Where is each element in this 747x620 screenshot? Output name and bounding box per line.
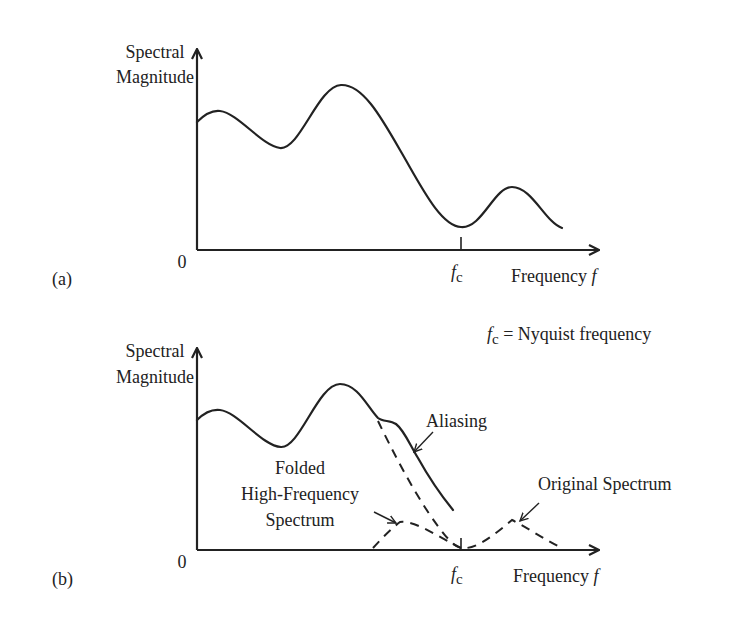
y-axis-label-line1: Spectral xyxy=(126,42,185,62)
aliasing-figure: Spectral Magnitude 0 (a) fc Frequency f … xyxy=(0,0,747,620)
x-axis-label: Frequency f xyxy=(511,266,599,286)
y-axis-label-line2: Magnitude xyxy=(116,67,194,87)
original-spectrum-dashed xyxy=(378,421,562,548)
nyquist-tick-label: fc xyxy=(451,564,463,587)
nyquist-legend: fc = Nyquist frequency xyxy=(487,324,651,347)
original-spectrum-label: Original Spectrum xyxy=(538,474,671,494)
origin-label: 0 xyxy=(178,252,187,272)
folded-spectrum-dashed xyxy=(373,522,461,548)
origin-label: 0 xyxy=(178,552,187,572)
folded-pointer xyxy=(374,512,396,523)
panel-tag: (b) xyxy=(52,569,73,590)
panel-b: Spectral Magnitude fc = Nyquist frequenc… xyxy=(52,324,671,590)
folded-label-line1: Folded xyxy=(275,458,325,478)
spectrum-curve xyxy=(197,85,562,228)
y-axis-label-line2: Magnitude xyxy=(116,367,194,387)
aliasing-label: Aliasing xyxy=(426,411,487,431)
aliasing-pointer xyxy=(414,432,433,452)
nyquist-tick-label: fc xyxy=(451,262,463,285)
folded-label-line2: High-Frequency xyxy=(241,484,359,504)
x-axis-label: Frequency f xyxy=(513,566,601,586)
y-axis-label-line1: Spectral xyxy=(126,341,185,361)
panel-a: Spectral Magnitude 0 (a) fc Frequency f xyxy=(52,42,599,290)
original-pointer xyxy=(520,503,539,521)
panel-tag: (a) xyxy=(52,269,72,290)
folded-label-line3: Spectrum xyxy=(266,510,335,530)
